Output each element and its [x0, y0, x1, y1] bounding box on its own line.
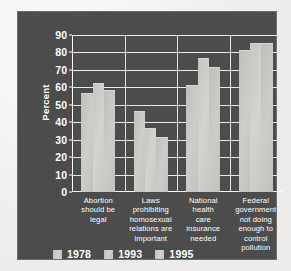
y-tick-label-10: 10 [55, 169, 67, 180]
y-axis-title: Percent [40, 73, 51, 133]
legend-swatch-1995 [155, 250, 164, 259]
y-tick-label-90: 90 [55, 30, 67, 41]
x-category-label-line: needed [177, 234, 230, 243]
bar-group [177, 35, 230, 192]
legend-item-1993: 1993 [104, 249, 142, 260]
y-tick-label-60: 60 [55, 82, 67, 93]
bar [81, 93, 92, 192]
y-tick-label-70: 70 [55, 65, 67, 76]
x-category-label-line: government [230, 205, 283, 214]
x-category-label-line: not doing [230, 215, 283, 224]
bar-group [230, 35, 283, 192]
y-tick-label-0: 0 [61, 187, 67, 198]
bar-group [72, 35, 125, 192]
x-category-label-line: Federal [230, 196, 283, 205]
legend-label-1995: 1995 [169, 249, 193, 260]
x-category-label-line: pollution [230, 243, 283, 252]
legend-label-1978: 1978 [67, 249, 91, 260]
bar [145, 128, 156, 192]
bar [156, 137, 167, 192]
plot-area: 0102030405060708090 [72, 35, 282, 192]
x-category-label-line: health [177, 205, 230, 214]
legend-item-1978: 1978 [53, 249, 91, 260]
x-category-label-line: prohibiting [125, 205, 178, 214]
y-tick-label-80: 80 [55, 47, 67, 58]
y-tick-label-20: 20 [55, 152, 67, 163]
x-category-label-line: legal [72, 215, 125, 224]
bar [186, 85, 197, 192]
x-category-label: Lawsprohibitinghomosexualrelations areim… [125, 196, 178, 243]
bar [198, 58, 209, 192]
y-tick-label-50: 50 [55, 100, 67, 111]
x-category-label-line: relations are [125, 224, 178, 233]
x-category-label-line: National [177, 196, 230, 205]
bar [104, 90, 115, 192]
x-category-label-line: Abortion [72, 196, 125, 205]
x-category-label: Abortionshould belegal [72, 196, 125, 224]
x-category-label: Federalgovernmentnot doingenough tocontr… [230, 196, 283, 252]
bar [250, 43, 261, 192]
bar [239, 50, 250, 192]
legend-swatch-1993 [104, 250, 113, 259]
x-category-label-line: Laws [125, 196, 178, 205]
x-category-label-line: insurance [177, 224, 230, 233]
x-category-label-line: should be [72, 205, 125, 214]
legend-item-1995: 1995 [155, 249, 193, 260]
bar [209, 67, 220, 192]
bar-group [125, 35, 178, 192]
y-tick-label-30: 30 [55, 134, 67, 145]
bar [261, 43, 272, 192]
chart-figure: Percent 0102030405060708090 Abortionshou… [0, 0, 291, 271]
x-category-label: Nationalhealthcareinsuranceneeded [177, 196, 230, 243]
chart-panel: Percent 0102030405060708090 Abortionshou… [17, 11, 277, 260]
x-category-label-line: enough to [230, 224, 283, 233]
legend-label-1993: 1993 [118, 249, 142, 260]
x-category-label-line: care [177, 215, 230, 224]
bar [93, 83, 104, 192]
bar [134, 111, 145, 192]
legend-swatch-1978 [53, 250, 62, 259]
y-tick-label-40: 40 [55, 117, 67, 128]
legend: 197819931995 [53, 249, 194, 260]
x-category-label-line: important [125, 234, 178, 243]
x-category-label-line: control [230, 234, 283, 243]
x-category-label-line: homosexual [125, 215, 178, 224]
